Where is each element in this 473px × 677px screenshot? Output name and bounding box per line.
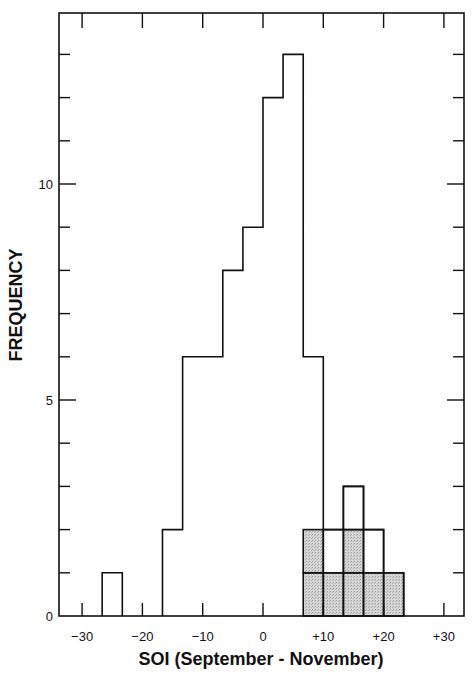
y-axis-ticks [59,54,464,572]
x-axis-tick-labels: −30−20−100+10+20+30 [71,629,455,644]
shaded-bar [343,573,363,616]
x-tick-label: +10 [312,629,334,644]
x-tick-label: +30 [433,629,455,644]
x-tick-label: −10 [192,629,214,644]
y-axis-title: FREQUENCY [6,248,26,361]
plot-border [59,13,464,616]
x-tick-label: −20 [131,629,153,644]
x-tick-label: 0 [259,629,266,644]
shaded-bar [323,573,343,616]
x-tick-label: −30 [71,629,93,644]
bar-cell [323,530,343,573]
x-tick-label: +20 [373,629,395,644]
bar-cell [364,530,384,573]
shaded-bar [384,573,404,616]
bar-cell [343,486,363,529]
shaded-bar [303,573,323,616]
shaded-bar [343,530,363,573]
x-axis-title: SOI (September - November) [138,649,383,669]
plot-frame [59,13,464,616]
y-axis-tick-labels: 0510 [39,177,53,624]
y-tick-label: 0 [46,609,53,624]
shaded-bar [364,573,384,616]
histogram-chart: −30−20−100+10+20+30 0510 SOI (September … [0,0,473,677]
y-tick-label: 10 [39,177,53,192]
y-tick-label: 5 [46,393,53,408]
shaded-bar [303,530,323,573]
